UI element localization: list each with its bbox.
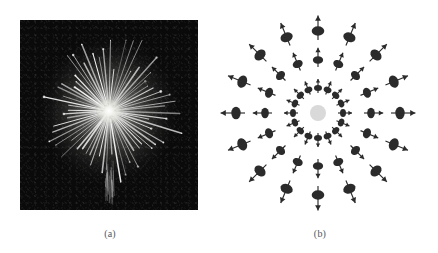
firework-spark	[129, 161, 131, 163]
spin-particle	[275, 21, 296, 48]
firework-spark	[110, 40, 111, 41]
spin-particle	[312, 186, 325, 210]
arrow-head	[402, 73, 409, 80]
spin-particle	[245, 160, 271, 186]
firework-spark	[55, 144, 56, 145]
particle-body	[291, 59, 303, 70]
spin-particle	[391, 107, 415, 120]
particle-body	[361, 86, 372, 98]
firework-spark	[63, 113, 66, 116]
spin-particle	[268, 63, 289, 84]
spin-particle	[245, 40, 271, 66]
arrow-head	[284, 111, 288, 115]
spin-particle	[365, 40, 391, 66]
particle-body	[304, 86, 314, 95]
spin-particle	[347, 63, 368, 84]
particle-body	[290, 109, 296, 117]
spin-particle	[331, 51, 348, 73]
spin-particle	[314, 133, 322, 147]
firework-spark	[150, 72, 151, 73]
arrow-head	[315, 174, 320, 178]
firework-spark	[101, 172, 103, 174]
arrow-head	[379, 110, 383, 115]
firework-spark	[74, 75, 76, 77]
firework-spark	[72, 54, 75, 57]
firework-spark	[144, 80, 146, 82]
particle-body	[340, 109, 346, 117]
spin-particle	[256, 83, 278, 100]
particle-body	[323, 132, 333, 141]
caption-panel-b: (b)	[290, 228, 350, 239]
arrow-head	[227, 73, 234, 80]
particle-body	[291, 118, 300, 128]
arrow-head	[339, 52, 345, 58]
figure-root: (a) (b)	[0, 0, 438, 253]
firework-spark	[125, 40, 126, 41]
particle-body	[264, 86, 275, 98]
spin-particle	[383, 70, 410, 91]
firework-spark	[154, 144, 156, 146]
spin-particle	[288, 154, 305, 176]
spin-particle	[364, 108, 383, 118]
firework-spark	[147, 86, 148, 87]
firework-spark	[92, 53, 94, 55]
spin-particle	[253, 108, 272, 118]
arrow-head	[351, 197, 358, 204]
arrow-head	[410, 110, 415, 116]
spin-particle	[221, 107, 245, 120]
particle-body	[291, 99, 300, 109]
firework-spark	[102, 48, 104, 50]
firework-spark	[155, 56, 157, 58]
panel-a-firework-photo	[20, 20, 198, 210]
arrow-head	[348, 111, 352, 115]
spin-particle	[256, 126, 278, 143]
spin-particle	[268, 142, 289, 163]
particle-body	[313, 56, 323, 64]
firework-spark	[137, 165, 139, 167]
particle-body	[314, 85, 322, 91]
firework-spark	[159, 90, 162, 93]
arrow-head	[345, 98, 350, 103]
spin-particle	[338, 109, 352, 117]
firework-spark	[124, 174, 126, 176]
particle-body	[312, 190, 325, 199]
spin-particle	[312, 16, 325, 40]
spin-particle	[314, 79, 322, 93]
spin-particle	[313, 159, 323, 178]
particle-body	[312, 26, 325, 35]
arrow-head	[316, 143, 320, 147]
particle-body	[264, 127, 275, 139]
arrow-head	[291, 52, 297, 58]
arrow-head	[373, 86, 379, 92]
arrow-head	[291, 168, 297, 174]
particle-body	[342, 182, 357, 196]
firework-spark	[169, 94, 171, 96]
arrow-head	[303, 81, 308, 86]
arrow-head	[253, 110, 257, 115]
firework-spark	[67, 55, 68, 56]
particle-body	[279, 182, 294, 196]
firework-spark	[151, 147, 153, 149]
firework-spark	[43, 96, 46, 99]
spin-particle	[383, 135, 410, 156]
firework-spark	[130, 71, 131, 72]
particle-body	[279, 30, 294, 44]
firework-spark	[150, 127, 152, 129]
spin-particle	[340, 178, 361, 205]
spin-particle	[359, 126, 381, 143]
firework-spark	[73, 86, 75, 88]
particle-body	[323, 86, 333, 95]
arrow-head	[315, 16, 321, 21]
firework-spark	[48, 141, 50, 143]
spin-particle	[359, 83, 381, 100]
particle-body	[387, 137, 401, 152]
arrow-head	[316, 79, 320, 83]
caption-panel-a: (a)	[80, 228, 140, 239]
arrow-head	[373, 134, 379, 140]
particle-body	[231, 107, 240, 120]
spin-particle	[347, 142, 368, 163]
spin-particle	[288, 51, 305, 73]
firework-spark	[181, 133, 182, 134]
arrow-head	[257, 86, 263, 92]
spin-particle	[331, 154, 348, 176]
